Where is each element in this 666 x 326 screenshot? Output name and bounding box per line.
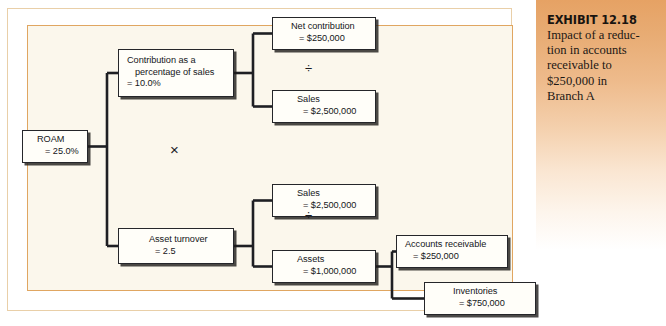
node-sales-top-label: Sales	[281, 94, 369, 106]
node-roam: ROAM = 25.0%	[22, 130, 88, 163]
node-sales-top: Sales = $2,500,000	[272, 90, 376, 123]
node-contribution-label-line2: percentage of sales	[127, 67, 227, 79]
node-sales-bottom: Sales = $2,500,000	[272, 184, 376, 217]
node-roam-label: ROAM	[31, 134, 81, 146]
node-net-contribution: Net contribution = $250,000	[272, 17, 376, 50]
exhibit-caption-line-1: Impact of a reduc-	[547, 28, 656, 43]
node-assets-value: = $1,000,000	[281, 266, 369, 278]
node-accounts-receivable: Accounts receivable = $250,000	[396, 235, 508, 268]
node-inventories-label: Inventories	[433, 286, 529, 298]
exhibit-figure: ROAM = 25.0% Contribution as a percentag…	[0, 0, 666, 326]
node-accounts-receivable-label: Accounts receivable	[405, 239, 501, 251]
node-contribution-label-line1: Contribution as a	[127, 55, 227, 67]
diagram-canvas: ROAM = 25.0% Contribution as a percentag…	[0, 0, 520, 326]
node-assets: Assets = $1,000,000	[272, 250, 376, 283]
node-contribution-value: = 10.0%	[127, 78, 227, 90]
node-net-contribution-value: = $250,000	[281, 33, 369, 45]
multiply-operator: ×	[170, 141, 179, 158]
exhibit-caption-line-4: $250,000 in	[547, 74, 656, 89]
exhibit-caption-line-5: Branch A	[547, 89, 656, 104]
node-sales-bottom-value: = $2,500,000	[281, 200, 369, 212]
exhibit-caption-line-3: receivable to	[547, 58, 656, 73]
node-inventories-value: = $750,000	[433, 298, 529, 310]
divide-operator-top: ÷	[305, 61, 312, 76]
node-assets-label: Assets	[281, 254, 369, 266]
node-sales-bottom-label: Sales	[281, 188, 369, 200]
divide-operator-bottom: ÷	[305, 208, 312, 223]
node-net-contribution-label: Net contribution	[281, 21, 369, 33]
node-sales-top-value: = $2,500,000	[281, 106, 369, 118]
node-asset-turnover-label: Asset turnover	[127, 234, 227, 246]
node-asset-turnover: Asset turnover = 2.5	[118, 228, 234, 264]
exhibit-caption-panel: EXHIBIT 12.18 Impact of a reduc- tion in…	[536, 0, 666, 272]
node-asset-turnover-value: = 2.5	[127, 246, 227, 258]
node-contribution-percentage: Contribution as a percentage of sales = …	[118, 49, 234, 97]
node-roam-value: = 25.0%	[31, 146, 81, 158]
node-accounts-receivable-value: = $250,000	[405, 251, 501, 263]
exhibit-title: EXHIBIT 12.18	[547, 13, 656, 27]
connector-lines	[0, 0, 520, 326]
node-inventories: Inventories = $750,000	[424, 282, 536, 315]
exhibit-caption-line-2: tion in accounts	[547, 43, 656, 58]
exhibit-caption-text: Impact of a reduc- tion in accounts rece…	[547, 28, 656, 104]
